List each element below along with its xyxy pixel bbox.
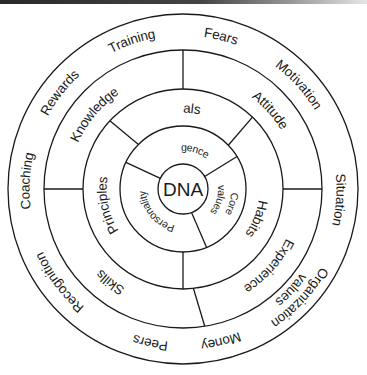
label-motivation: Motivation [273, 57, 325, 113]
label-habits: Habits [242, 199, 270, 240]
label-knowledge: Knowledge [67, 84, 121, 144]
labels: DNAIntelligenceCorevaluesPersonalityGoal… [0, 0, 348, 354]
label-situation: Situation [329, 173, 348, 228]
label-training: Training [106, 26, 157, 56]
label-rewards: Rewards [37, 67, 82, 118]
concentric-diagram: DNAIntelligenceCorevaluesPersonalityGoal… [0, 0, 367, 375]
label-peers: Peers [131, 332, 169, 354]
label-skills: Skills [93, 267, 127, 298]
label-money: Money [200, 329, 243, 353]
center-label: DNA [163, 179, 203, 200]
segment-divider [228, 117, 252, 145]
segment-divider [193, 288, 204, 326]
label-coaching: Coaching [18, 151, 37, 210]
segment-divider [126, 162, 160, 178]
label-recognition: Recognition [32, 250, 87, 316]
segment-divider [205, 157, 237, 177]
label-fears: Fears [203, 25, 240, 48]
segment-divider [110, 121, 139, 145]
label-intelligence: Intelligence [0, 0, 212, 160]
segment-divider [192, 212, 207, 247]
label-principles: Principles [94, 175, 121, 236]
